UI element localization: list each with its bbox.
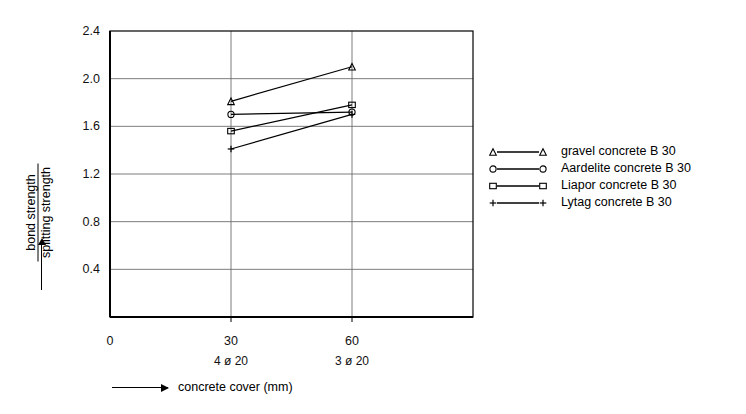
series-line — [231, 105, 352, 131]
y-tick-label: 2.0 — [66, 73, 100, 86]
circle-icon — [490, 165, 496, 171]
x-axis-title-label: concrete cover (mm) — [178, 381, 293, 394]
legend-marker — [487, 144, 549, 160]
marker-triangle — [490, 148, 497, 155]
marker-plus — [228, 146, 235, 153]
x-tick-label: 30 — [211, 335, 251, 348]
y-tick-label: 1.6 — [66, 120, 100, 133]
triangle-icon — [540, 148, 547, 155]
legend-key-circle-icon — [487, 161, 549, 177]
marker-circle — [540, 165, 546, 171]
square-icon — [540, 183, 547, 188]
marker-triangle — [540, 148, 547, 155]
marker-plus — [490, 199, 497, 206]
legend-item: gravel concrete B 30 — [487, 143, 737, 160]
chart-legend: gravel concrete B 30Aardelite concrete B… — [487, 143, 737, 211]
legend-item: Lytag concrete B 30 — [487, 194, 737, 211]
circle-icon — [540, 165, 546, 171]
legend-label: Liapor concrete B 30 — [561, 179, 676, 192]
series-line — [231, 67, 352, 102]
legend-label: gravel concrete B 30 — [561, 145, 676, 158]
series-2 — [228, 102, 356, 134]
x-tick-sublabel: 3 ø 20 — [322, 355, 382, 367]
x-axis-title: concrete cover (mm) — [112, 381, 293, 394]
legend-marker — [487, 178, 549, 194]
legend-label: Lytag concrete B 30 — [561, 196, 672, 209]
x-tick-label: 0 — [90, 335, 130, 348]
series-1 — [228, 109, 355, 118]
x-tick-sublabel: 4 ø 20 — [201, 355, 261, 367]
series-0 — [228, 63, 356, 104]
chart-figure: bond strength splitting strength 0.40.81… — [0, 0, 746, 414]
marker-square — [540, 183, 547, 188]
x-axis-arrow-icon — [112, 387, 168, 388]
marker-circle — [490, 165, 496, 171]
legend-key-plus-icon — [487, 195, 549, 211]
y-tick-label: 0.4 — [66, 263, 100, 276]
y-tick-label: 2.4 — [66, 25, 100, 38]
y-tick-label: 0.8 — [66, 216, 100, 229]
legend-marker — [487, 161, 549, 177]
square-icon — [490, 183, 497, 188]
legend-marker — [487, 195, 549, 211]
x-tick-label: 60 — [332, 335, 372, 348]
legend-key-square-icon — [487, 178, 549, 194]
legend-key-triangle-icon — [487, 144, 549, 160]
y-tick-label: 1.2 — [66, 168, 100, 181]
legend-item: Aardelite concrete B 30 — [487, 160, 737, 177]
legend-label: Aardelite concrete B 30 — [561, 162, 691, 175]
series-line — [231, 114, 352, 149]
marker-square — [490, 183, 497, 188]
series-3 — [228, 111, 356, 152]
triangle-icon — [490, 148, 497, 155]
legend-item: Liapor concrete B 30 — [487, 177, 737, 194]
marker-plus — [540, 199, 547, 206]
series-line — [231, 112, 352, 114]
